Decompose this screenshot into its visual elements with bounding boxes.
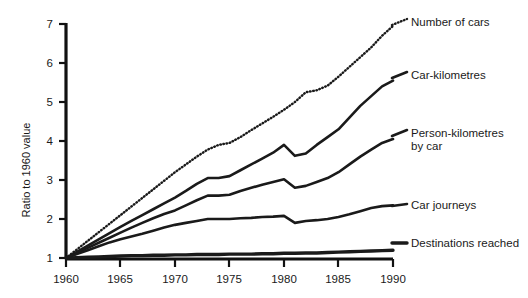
y-tick-label-3: 3 bbox=[47, 174, 53, 186]
x-tick-label-1960: 1960 bbox=[53, 273, 79, 285]
line-chart: 7 6 5 4 3 2 1 1960 1965 1970 1975 1980 1… bbox=[0, 0, 528, 298]
y-tick-label-4: 4 bbox=[47, 135, 54, 147]
series-label-car-journeys: Car journeys bbox=[411, 199, 476, 211]
y-tick-label-6: 6 bbox=[47, 57, 53, 69]
x-tick-label-1985: 1985 bbox=[325, 273, 351, 285]
x-tick-label-1990: 1990 bbox=[380, 273, 406, 285]
y-tick-label-5: 5 bbox=[47, 96, 53, 108]
chart-figure: 7 6 5 4 3 2 1 1960 1965 1970 1975 1980 1… bbox=[0, 0, 528, 298]
y-tick-label-7: 7 bbox=[47, 18, 53, 30]
y-axis-title: Ratio to 1960 value bbox=[20, 123, 32, 218]
series-label-destinations-reached: Destinations reached bbox=[411, 237, 519, 249]
x-tick-label-1980: 1980 bbox=[271, 273, 297, 285]
x-tick-label-1975: 1975 bbox=[216, 273, 242, 285]
x-tick-label-1965: 1965 bbox=[107, 273, 133, 285]
series-label-person-kilometres-line2: by car bbox=[411, 140, 442, 152]
series-label-car-kilometres: Car-kilometres bbox=[411, 69, 486, 81]
series-label-number-of-cars: Number of cars bbox=[411, 16, 490, 28]
series-label-person-kilometres: Person-kilometres bbox=[411, 127, 504, 139]
y-tick-label-2: 2 bbox=[47, 213, 53, 225]
y-tick-label-1: 1 bbox=[47, 252, 53, 264]
x-tick-label-1970: 1970 bbox=[162, 273, 188, 285]
